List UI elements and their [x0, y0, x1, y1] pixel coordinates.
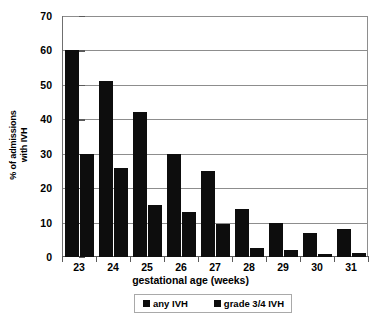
- bar: [182, 212, 196, 257]
- bar: [318, 254, 332, 257]
- bar: [65, 50, 79, 257]
- x-axis-tick-label: 24: [107, 261, 119, 273]
- bar: [99, 81, 113, 257]
- legend-label: any IVH: [153, 298, 188, 309]
- x-axis-tick-label: 23: [73, 261, 85, 273]
- x-axis-tick-mark: [96, 257, 97, 262]
- x-axis-title: gestational age (weeks): [0, 274, 381, 286]
- chart-legend: any IVH grade 3/4 IVH: [134, 294, 292, 313]
- legend-item-any-ivh: any IVH: [143, 298, 188, 309]
- y-axis-tick-label: 10: [24, 217, 52, 229]
- bar: [337, 229, 351, 257]
- x-axis-tick-mark: [368, 257, 369, 262]
- legend-label: grade 3/4 IVH: [224, 298, 284, 309]
- bar: [284, 250, 298, 257]
- x-axis-tick-label: 26: [175, 261, 187, 273]
- x-axis-tick-mark: [334, 257, 335, 262]
- bar: [250, 248, 264, 257]
- y-axis-tick-label: 0: [24, 251, 52, 263]
- y-axis-tick-label: 50: [24, 79, 52, 91]
- bars-layer: [62, 16, 368, 257]
- bar: [201, 171, 215, 257]
- legend-item-grade-34-ivh: grade 3/4 IVH: [214, 298, 284, 309]
- x-axis-tick-mark: [266, 257, 267, 262]
- x-axis-tick-mark: [300, 257, 301, 262]
- legend-swatch-icon: [214, 300, 221, 307]
- y-axis-title-line-1: % of admissions: [8, 110, 19, 180]
- bar: [80, 154, 94, 257]
- x-axis-tick-label: 28: [243, 261, 255, 273]
- x-axis-tick-mark: [62, 257, 63, 262]
- y-axis-tick-label: 60: [24, 44, 52, 56]
- bar: [148, 205, 162, 257]
- legend-swatch-icon: [143, 300, 150, 307]
- x-axis-tick-label: 30: [311, 261, 323, 273]
- x-axis-tick-label: 31: [345, 261, 357, 273]
- y-axis-tick-label: 40: [24, 113, 52, 125]
- x-axis-tick-label: 29: [277, 261, 289, 273]
- bar: [303, 233, 317, 257]
- x-axis-tick-mark: [198, 257, 199, 262]
- x-axis-tick-mark: [232, 257, 233, 262]
- x-axis-tick-label: 27: [209, 261, 221, 273]
- y-axis-tick-label: 70: [24, 10, 52, 22]
- bar: [114, 168, 128, 258]
- y-axis-tick-label: 30: [24, 148, 52, 160]
- bar: [216, 224, 230, 257]
- bar-chart: % of admissions with IVH 010203040506070…: [0, 0, 381, 320]
- y-axis-tick-label: 20: [24, 182, 52, 194]
- bar: [167, 154, 181, 257]
- x-axis-tick-label: 25: [141, 261, 153, 273]
- x-axis-tick-mark: [130, 257, 131, 262]
- x-axis-tick-mark: [164, 257, 165, 262]
- bar: [133, 112, 147, 257]
- bar: [235, 209, 249, 257]
- bar: [352, 253, 366, 257]
- bar: [269, 223, 283, 257]
